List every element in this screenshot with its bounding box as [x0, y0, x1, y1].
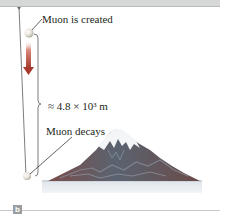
panel-divider	[0, 210, 220, 211]
label-distance: ≈ 4.8 × 10³ m	[48, 100, 108, 112]
muon-decay-particle	[23, 172, 31, 180]
distance-bracket	[34, 34, 41, 176]
created-leader-line	[32, 19, 42, 30]
label-muon-created: Muon is created	[42, 13, 113, 25]
decay-leader-line	[30, 137, 72, 174]
panel-label: b	[13, 205, 22, 214]
muon-diagram	[0, 0, 226, 218]
ground	[42, 180, 202, 193]
label-muon-decays: Muon decays	[46, 125, 105, 137]
downward-arrow-icon	[23, 40, 34, 75]
